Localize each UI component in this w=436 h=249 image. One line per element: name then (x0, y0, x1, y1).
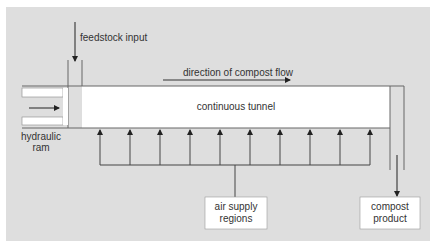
air-label-line1: air supply (215, 201, 258, 212)
product-label-line1: compost (371, 201, 409, 212)
ram-label-line2: ram (32, 142, 49, 153)
air-supply-box: air supply regions (205, 197, 267, 229)
compost-product-box: compost product (360, 197, 420, 229)
ram-label-line1: hydraulic (21, 131, 61, 142)
tunnel-label: continuous tunnel (197, 101, 275, 112)
direction-label: direction of compost flow (183, 67, 294, 78)
air-label-line2: regions (220, 213, 253, 224)
composting-tunnel-diagram: continuous tunnel feedstock input hydrau… (0, 0, 436, 249)
product-label-line2: product (373, 213, 407, 224)
feedstock-label: feedstock input (80, 32, 147, 43)
